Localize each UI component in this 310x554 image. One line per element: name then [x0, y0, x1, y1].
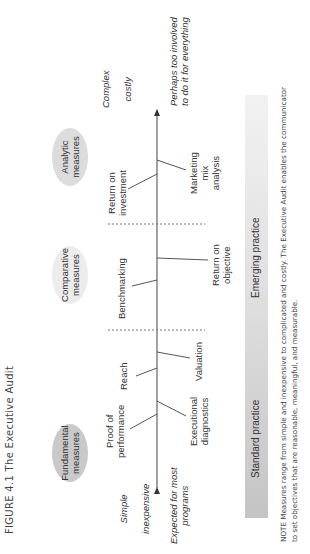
measure-label: diagnostics [199, 398, 210, 446]
branch-benchmarking [132, 280, 157, 286]
figure-note: NOTE Measures range from simple and inex… [279, 2, 300, 542]
branch-valuation [157, 352, 190, 358]
axis-left-note: Expected for most programs [168, 467, 190, 544]
measure-label: Return on [106, 172, 117, 214]
measure-label: Proof of [104, 415, 115, 448]
branch-marketing-mix [157, 160, 186, 170]
measure-label: investment [117, 170, 128, 216]
measure-label: Executional [188, 397, 199, 446]
axis-right-line2: costly [122, 77, 133, 101]
measure-marketing-mix-analysis: Marketing mix analysis [188, 152, 221, 194]
axis-right-label: Complex costly [100, 71, 133, 109]
branch-executional-diagnostics [157, 401, 186, 416]
branch-proof-of-performance [130, 414, 157, 429]
practice-gradient-bar: Standard practice Emerging practice [245, 95, 268, 518]
axis-left-line1: Simple [118, 494, 129, 523]
axis-right-note-line2: to do it for everything [179, 17, 190, 106]
branch-reach [136, 368, 157, 376]
measure-valuation: Valuation [193, 342, 204, 381]
axis-left-line2: inexpensive [140, 484, 151, 534]
measure-label: Benchmarking [116, 258, 127, 319]
measure-label: performance [115, 405, 126, 458]
axis-left-label: Simple inexpensive [118, 484, 151, 534]
measure-label: Valuation [193, 342, 204, 381]
measure-return-on-investment: Return on investment [106, 170, 128, 216]
axis-left-note-line2: programs [179, 486, 190, 526]
axis-right-note-line1: Perhaps too involved [168, 17, 179, 106]
executive-audit-figure: FIGURE 4.1 The Executive Audit Fundament… [0, 0, 310, 554]
branch-roi [128, 174, 157, 189]
measure-benchmarking: Benchmarking [116, 258, 127, 319]
standard-practice-label: Standard practice [250, 400, 261, 478]
note-line1: NOTE Measures range from simple and inex… [279, 2, 290, 542]
measure-proof-of-performance: Proof of performance [104, 405, 126, 458]
measure-reach: Reach [118, 363, 129, 390]
measure-label: Marketing [188, 152, 199, 194]
branch-return-on-objective [157, 258, 208, 260]
axis-left-note-line1: Expected for most [168, 467, 179, 544]
axis-right-note: Perhaps too involved to do it for everyt… [168, 17, 190, 106]
note-line2: to set objectives that are reasonable, m… [290, 2, 301, 542]
axis-right-line1: Complex [100, 71, 111, 109]
measure-return-on-objective: Return on objective [210, 244, 232, 286]
measure-label: objective [221, 246, 232, 284]
emerging-practice-label: Emerging practice [250, 217, 261, 298]
measure-label: Reach [118, 363, 129, 390]
measure-executional-diagnostics: Executional diagnostics [188, 397, 210, 446]
measure-label: mix [199, 166, 210, 181]
measure-label: Return on [210, 244, 221, 286]
measure-label: analysis [210, 156, 221, 190]
